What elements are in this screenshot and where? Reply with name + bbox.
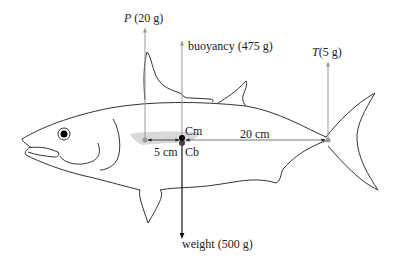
center-of-mass-label: Cm	[185, 125, 202, 137]
pectoral-point	[143, 138, 148, 143]
distance-label-5cm: 5 cm	[154, 146, 178, 158]
pectoral-force-label: P (20 g)	[124, 12, 163, 24]
weight-label: weight (500 g)	[182, 238, 253, 250]
tail-point	[326, 138, 331, 143]
tail-force-label: T(5 g)	[312, 46, 342, 58]
tail-force-value: (5 g)	[319, 45, 342, 59]
tail-fin	[326, 93, 378, 190]
tail-force-symbol: T	[312, 45, 319, 59]
distance-label-20cm: 20 cm	[240, 128, 270, 140]
center-of-buoyancy-label: Cb	[185, 146, 199, 158]
pectoral-force-value: (20 g)	[134, 11, 163, 25]
dorsal-fin-rear	[218, 81, 247, 106]
pectoral-force-symbol: P	[124, 11, 131, 25]
buoyancy-label: buoyancy (475 g)	[188, 40, 273, 52]
fish-body	[22, 102, 328, 223]
fish-force-diagram: P (20 g) buoyancy (475 g) T(5 g) Cm Cb 5…	[0, 0, 396, 258]
eye-pupil	[61, 131, 68, 138]
dorsal-fin-front	[144, 52, 213, 102]
